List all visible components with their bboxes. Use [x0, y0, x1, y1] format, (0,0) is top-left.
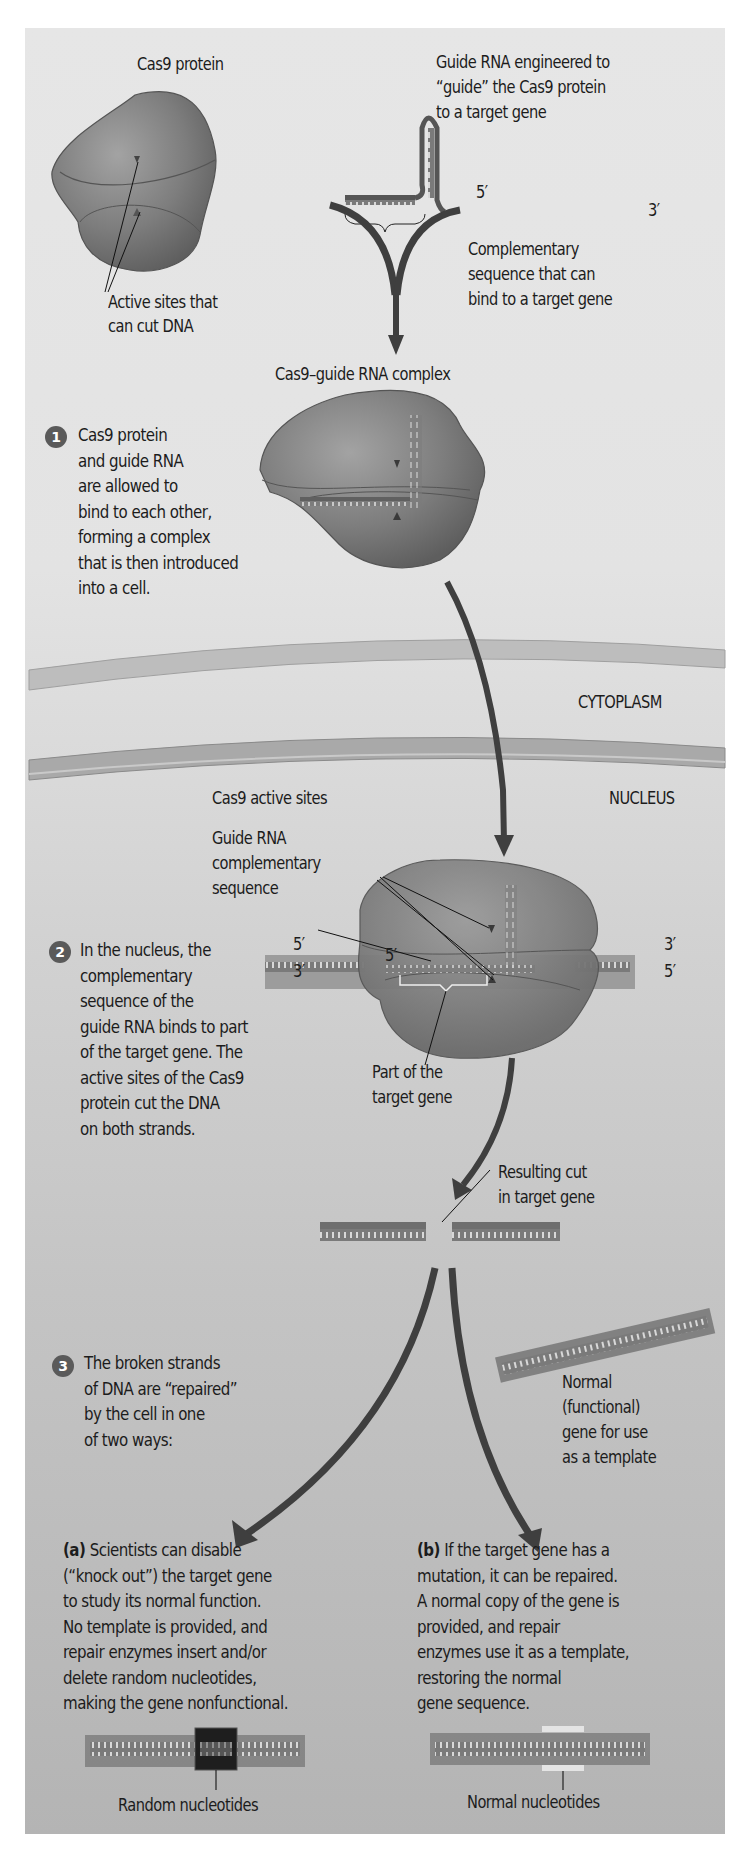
nuclear-envelope: [29, 737, 725, 780]
repair-branch-arrows: [232, 1268, 542, 1552]
guide-three-prime: 3′: [648, 198, 660, 223]
step-1-text: Cas9 protein and guide RNA are allowed t…: [78, 423, 238, 602]
step-3-text: The broken strands of DNA are “repaired”…: [84, 1351, 237, 1453]
normal-nucleotides-caption: Normal nucleotides: [467, 1790, 600, 1815]
cytoplasm-label: CYTOPLASM: [578, 690, 662, 715]
dna-left-bottom-end: 3′: [293, 959, 305, 984]
cas9-protein-shape: [52, 92, 216, 292]
guide-five-prime: 5′: [476, 180, 488, 205]
dna-left-top-end: 5′: [293, 932, 305, 957]
into-cell-arrow: [447, 582, 514, 857]
nucleus-label: NUCLEUS: [609, 786, 675, 811]
random-nucleotides-caption: Random nucleotides: [118, 1793, 258, 1818]
step-2-badge: 2: [49, 941, 71, 963]
complex-label: Cas9–guide RNA complex: [275, 362, 450, 387]
dna-right-top-end: 3′: [664, 932, 676, 957]
cas9-active-sites-label: Cas9 active sites: [212, 786, 327, 811]
outcome-b-tag: (b): [417, 1540, 440, 1560]
knockout-dna: [85, 1728, 305, 1790]
step-2-text: In the nucleus, the complementary sequen…: [80, 938, 248, 1142]
cell-membrane: [29, 640, 725, 690]
repaired-dna: [430, 1726, 650, 1790]
step-1-badge: 1: [45, 426, 67, 448]
cas9-guide-complex-shape: [260, 390, 485, 567]
outcome-a-text: (a) Scientists can disable (“knock out”)…: [63, 1538, 288, 1717]
guide-inner-five-prime: 5′: [385, 943, 397, 968]
outcome-a-tag: (a): [63, 1540, 85, 1560]
outcome-b-text: (b) If the target gene has a mutation, i…: [417, 1538, 629, 1717]
step-3-badge: 3: [52, 1355, 74, 1377]
dna-right-bottom-end: 5′: [664, 959, 676, 984]
target-dna-with-complex: [265, 860, 635, 1065]
cut-dna: [320, 1222, 560, 1241]
merge-arrow: [330, 205, 460, 355]
cas9-protein-label: Cas9 protein: [137, 52, 224, 77]
